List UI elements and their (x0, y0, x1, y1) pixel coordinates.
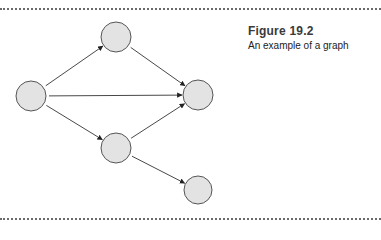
edge-D-C (131, 104, 184, 139)
node-B (101, 22, 131, 52)
bottom-dotted-rule (0, 218, 381, 220)
node-D (101, 133, 131, 163)
edge-B-C (131, 47, 185, 85)
node-C (183, 80, 213, 110)
edge-A-B (46, 46, 103, 86)
edge-D-E (132, 156, 185, 183)
node-A (16, 81, 46, 111)
figure-description: An example of a graph (248, 40, 349, 51)
node-E (184, 176, 212, 204)
edge-A-D (46, 105, 102, 139)
figure-label: Figure 19.2 (248, 24, 349, 38)
figure-caption: Figure 19.2 An example of a graph (248, 24, 349, 51)
graph-nodes (16, 22, 213, 204)
edge-A-C (49, 95, 182, 96)
